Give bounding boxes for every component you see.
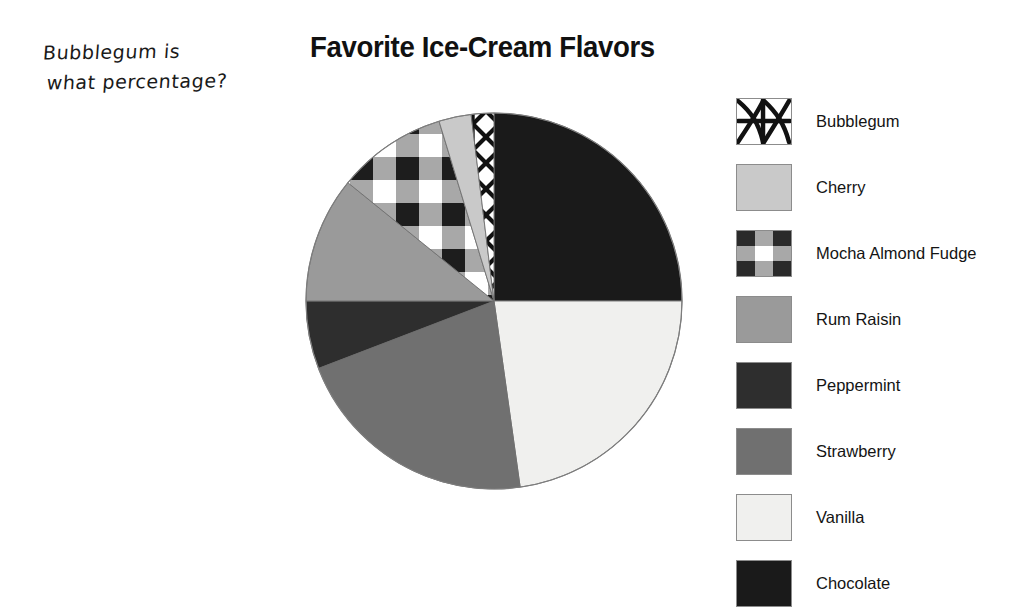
legend-label-mocha-almond-fudge: Mocha Almond Fudge	[816, 244, 977, 263]
swatch-peppermint-icon	[736, 362, 792, 409]
handwritten-question: Bubblegum is what percentage?	[40, 34, 295, 97]
legend-item-rum-raisin[interactable]: Rum Raisin	[736, 286, 1016, 352]
legend-label-bubblegum: Bubblegum	[816, 112, 899, 131]
legend-item-vanilla[interactable]: Vanilla	[736, 484, 1016, 550]
swatch-vanilla-icon	[736, 494, 792, 541]
question-line-1: Bubblegum is	[42, 34, 295, 67]
pie-slice-vanilla[interactable]	[494, 301, 682, 487]
legend-item-strawberry[interactable]: Strawberry	[736, 418, 1016, 484]
pie-chart	[304, 111, 684, 491]
chart-title: Favorite Ice-Cream Flavors	[310, 30, 655, 64]
legend-label-chocolate: Chocolate	[816, 574, 890, 593]
swatch-rum-raisin-icon	[736, 296, 792, 343]
swatch-cherry-icon	[736, 164, 792, 211]
pie-chart-worksheet: Bubblegum is what percentage? Favorite I…	[0, 0, 1016, 610]
legend: Bubblegum Cherry Mocha Almond Fudge Rum …	[736, 88, 1016, 610]
legend-label-vanilla: Vanilla	[816, 508, 864, 527]
legend-label-cherry: Cherry	[816, 178, 866, 197]
swatch-bubblegum-crosshatch-icon	[736, 98, 792, 145]
legend-label-rum-raisin: Rum Raisin	[816, 310, 901, 329]
pie-chart-svg	[304, 111, 684, 491]
swatch-mocha-almond-fudge-plaid-icon	[736, 230, 792, 277]
legend-label-peppermint: Peppermint	[816, 376, 900, 395]
question-line-2: what percentage?	[46, 64, 293, 97]
legend-item-mocha-almond-fudge[interactable]: Mocha Almond Fudge	[736, 220, 1016, 286]
legend-item-bubblegum[interactable]: Bubblegum	[736, 88, 1016, 154]
pie-slice-group	[306, 113, 682, 489]
legend-item-cherry[interactable]: Cherry	[736, 154, 1016, 220]
legend-label-strawberry: Strawberry	[816, 442, 896, 461]
pie-slice-chocolate[interactable]	[494, 113, 682, 301]
legend-item-chocolate[interactable]: Chocolate	[736, 550, 1016, 610]
swatch-strawberry-icon	[736, 428, 792, 475]
swatch-chocolate-icon	[736, 560, 792, 607]
legend-item-peppermint[interactable]: Peppermint	[736, 352, 1016, 418]
